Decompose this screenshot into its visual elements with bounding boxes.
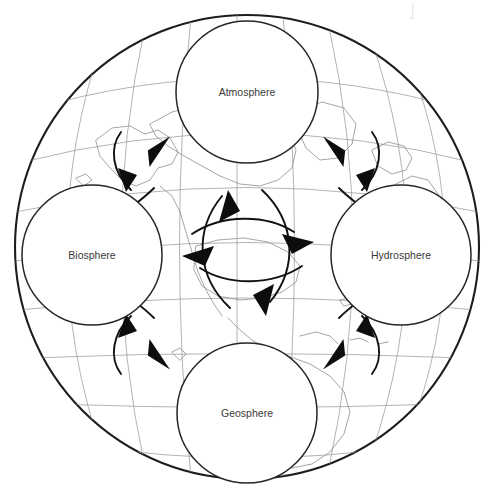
scan-artifact-speck — [410, 3, 414, 19]
sphere-node-biosphere[interactable]: Biosphere — [22, 185, 162, 325]
sphere-node-atmosphere[interactable]: Atmosphere — [176, 21, 318, 163]
hydrosphere-label: Hydrosphere — [371, 249, 431, 261]
figure-root: Atmosphere Biosphere Hydrosphere Geosphe… — [0, 0, 493, 499]
earth-systems-diagram: Atmosphere Biosphere Hydrosphere Geosphe… — [0, 0, 493, 499]
geosphere-label: Geosphere — [221, 407, 273, 419]
sphere-node-hydrosphere[interactable]: Hydrosphere — [331, 185, 471, 325]
sphere-node-geosphere[interactable]: Geosphere — [177, 343, 317, 483]
biosphere-label: Biosphere — [68, 249, 115, 261]
atmosphere-label: Atmosphere — [219, 86, 276, 98]
